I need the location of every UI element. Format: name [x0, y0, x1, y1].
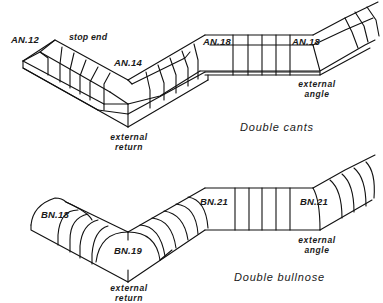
return-text: return — [108, 143, 150, 152]
caption-double-cants: Double cants — [240, 122, 314, 133]
label-stop-end: stop end — [69, 33, 107, 42]
external-text: external — [108, 284, 150, 293]
external-text: external — [296, 236, 338, 245]
label-external-angle-top: external angle — [296, 80, 338, 98]
label-an14: AN.14 — [114, 58, 142, 68]
label-bn21-left: BN.21 — [200, 197, 228, 207]
caption-double-bullnose: Double bullnose — [234, 272, 325, 283]
label-bn21-right: BN.21 — [300, 197, 328, 207]
label-external-angle-bottom: external angle — [296, 236, 338, 254]
label-bn18: BN.18 — [41, 210, 69, 220]
external-text: external — [108, 133, 150, 142]
label-external-return-top: external return — [108, 133, 150, 151]
label-bn19: BN.19 — [114, 246, 142, 256]
angle-text: angle — [296, 90, 338, 99]
return-text: return — [108, 294, 150, 303]
label-an18-left: AN.18 — [203, 37, 231, 47]
angle-text: angle — [296, 246, 338, 255]
label-an18-right: AN.18 — [292, 37, 320, 47]
label-external-return-bottom: external return — [108, 284, 150, 302]
double-bullnose-drawing — [31, 155, 375, 282]
label-an12: AN.12 — [11, 35, 39, 45]
external-text: external — [296, 80, 338, 89]
double-cants-drawing — [23, 2, 379, 127]
